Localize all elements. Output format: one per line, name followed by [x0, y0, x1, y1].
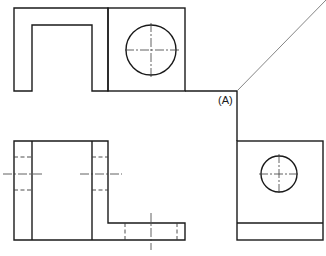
top-view-square [108, 8, 185, 91]
side-view [237, 91, 323, 240]
top-view-u-channel [14, 8, 108, 91]
front-view [3, 141, 185, 250]
point-a-label: (A) [218, 94, 233, 106]
miter-line [237, 0, 326, 91]
front-view-outline [14, 141, 185, 240]
top-view [14, 8, 237, 91]
orthographic-drawing: (A) [0, 0, 326, 256]
